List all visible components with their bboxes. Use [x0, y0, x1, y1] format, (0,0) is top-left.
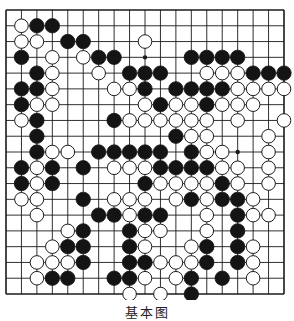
black-stone: [76, 239, 90, 253]
black-stone: [122, 66, 136, 80]
white-stone: [200, 208, 214, 222]
white-stone: [46, 256, 60, 270]
white-stone: [154, 256, 168, 270]
white-stone: [30, 193, 44, 207]
white-stone: [231, 66, 245, 80]
white-stone: [246, 256, 260, 270]
white-stone: [246, 193, 260, 207]
black-stone: [14, 82, 28, 96]
star-point: [143, 55, 147, 59]
white-stone: [61, 224, 75, 238]
white-stone: [154, 224, 168, 238]
white-stone: [231, 98, 245, 112]
black-stone: [30, 19, 44, 33]
black-stone: [138, 82, 152, 96]
black-stone: [45, 271, 59, 285]
white-stone: [30, 208, 44, 222]
black-stone: [169, 129, 183, 143]
black-stone: [30, 113, 44, 127]
white-stone: [154, 114, 168, 128]
white-stone: [76, 51, 90, 65]
black-stone: [122, 239, 136, 253]
white-stone: [138, 193, 152, 207]
white-stone: [262, 161, 276, 175]
black-stone: [153, 208, 167, 222]
black-stone: [138, 176, 152, 190]
black-stone: [91, 145, 105, 159]
white-stone: [262, 145, 276, 159]
black-stone: [61, 271, 75, 285]
black-stone: [107, 145, 121, 159]
black-stone: [277, 66, 291, 80]
white-stone: [107, 82, 121, 96]
black-stone: [215, 176, 229, 190]
black-stone: [91, 50, 105, 64]
black-stone: [107, 208, 121, 222]
white-stone: [30, 98, 44, 112]
white-stone: [215, 98, 229, 112]
black-stone: [30, 129, 44, 143]
white-stone: [30, 161, 44, 175]
white-stone: [169, 177, 183, 191]
white-stone: [138, 98, 152, 112]
white-stone: [231, 161, 245, 175]
black-stone: [107, 271, 121, 285]
black-stone: [138, 145, 152, 159]
black-stone: [184, 161, 198, 175]
black-stone: [76, 255, 90, 269]
black-stone: [91, 208, 105, 222]
white-stone: [262, 129, 276, 143]
white-stone: [200, 177, 214, 191]
black-stone: [30, 82, 44, 96]
white-stone: [46, 145, 60, 159]
black-stone: [261, 66, 275, 80]
white-stone: [262, 82, 276, 96]
black-stone: [45, 176, 59, 190]
diagram-caption: 基本图: [0, 302, 294, 321]
white-stone: [169, 271, 183, 285]
white-stone: [200, 129, 214, 143]
white-stone: [169, 193, 183, 207]
white-stone: [200, 114, 214, 128]
white-stone: [231, 177, 245, 191]
white-stone: [200, 224, 214, 238]
white-stone: [185, 129, 199, 143]
white-stone: [138, 271, 152, 285]
white-stone: [138, 161, 152, 175]
black-stone: [153, 97, 167, 111]
white-stone: [246, 82, 260, 96]
white-stone: [123, 287, 137, 300]
white-stone: [154, 287, 168, 300]
black-stone: [153, 145, 167, 159]
white-stone: [185, 98, 199, 112]
white-stone: [262, 177, 276, 191]
stones-layer: [14, 19, 291, 300]
white-stone: [185, 114, 199, 128]
black-stone: [138, 208, 152, 222]
black-stone: [61, 239, 75, 253]
black-stone: [184, 50, 198, 64]
black-stone: [14, 97, 28, 111]
white-stone: [15, 193, 29, 207]
white-stone: [185, 240, 199, 254]
black-stone: [153, 161, 167, 175]
white-stone: [107, 193, 121, 207]
white-stone: [200, 66, 214, 80]
black-stone: [169, 82, 183, 96]
white-stone: [138, 35, 152, 49]
white-stone: [46, 98, 60, 112]
white-stone: [15, 35, 29, 49]
white-stone: [123, 193, 137, 207]
black-stone: [45, 19, 59, 33]
white-stone: [15, 19, 29, 33]
white-stone: [138, 114, 152, 128]
white-stone: [46, 240, 60, 254]
white-stone: [277, 82, 291, 96]
white-stone: [15, 114, 29, 128]
black-stone: [200, 161, 214, 175]
white-stone: [123, 114, 137, 128]
white-stone: [107, 161, 121, 175]
go-board: [0, 0, 294, 300]
star-point: [235, 150, 239, 154]
white-stone: [30, 256, 44, 270]
